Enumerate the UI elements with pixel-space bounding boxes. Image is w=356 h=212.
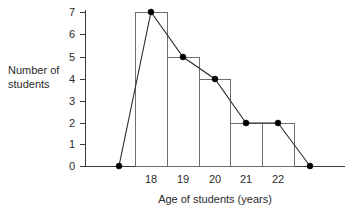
y-tick-label-2: 2	[69, 117, 75, 129]
chart-container: 0 1 2 3 4 5 6 7	[0, 0, 356, 212]
y-tick-label-3: 3	[69, 95, 75, 107]
polygon-point-23	[307, 163, 313, 169]
y-axis-title-line2: students	[8, 78, 50, 90]
bar-18	[135, 12, 167, 166]
bar-19	[167, 57, 199, 166]
x-tick-label-18: 18	[145, 173, 157, 185]
y-axis-tick-labels: 0 1 2 3 4 5 6 7	[69, 6, 75, 172]
bar-21	[230, 123, 262, 166]
polygon-point-21	[243, 120, 249, 126]
y-tick-label-6: 6	[69, 28, 75, 40]
y-axis-ticks	[80, 12, 85, 166]
x-tick-label-19: 19	[177, 173, 189, 185]
x-axis-tick-labels: 18 19 20 21 22	[145, 173, 284, 185]
frequency-polygon-markers	[116, 9, 313, 169]
y-tick-label-0: 0	[69, 160, 75, 172]
y-tick-label-1: 1	[69, 138, 75, 150]
y-axis-title-line1: Number of	[8, 64, 60, 76]
y-tick-label-4: 4	[69, 73, 75, 85]
y-tick-label-5: 5	[69, 51, 75, 63]
polygon-point-22	[275, 120, 281, 126]
bar-20	[199, 79, 230, 166]
polygon-point-18	[148, 9, 154, 15]
frequency-polygon-line	[119, 12, 310, 166]
polygon-point-20	[212, 76, 218, 82]
polygon-point-17	[116, 163, 122, 169]
histogram-bars	[135, 12, 294, 166]
y-axis-title: Number of students	[8, 64, 60, 90]
x-tick-label-20: 20	[209, 173, 221, 185]
histogram-frequency-polygon-chart: 0 1 2 3 4 5 6 7	[0, 0, 356, 212]
x-tick-label-22: 22	[272, 173, 284, 185]
polygon-point-19	[180, 54, 186, 60]
bar-22	[262, 123, 294, 166]
y-tick-label-7: 7	[69, 6, 75, 18]
x-tick-label-21: 21	[240, 173, 252, 185]
x-axis-title: Age of students (years)	[158, 193, 272, 205]
